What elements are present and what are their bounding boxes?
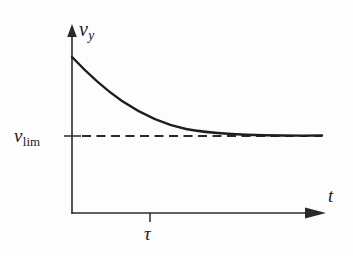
x-tick-label-tau: τ xyxy=(144,224,151,243)
plot-canvas xyxy=(0,0,353,256)
x-axis-arrowhead-icon xyxy=(305,207,326,218)
velocity-time-figure: vy vlim τ t xyxy=(0,0,353,256)
asymptote-label-subscript: lim xyxy=(23,136,40,149)
decay-curve xyxy=(72,57,322,136)
y-axis-label-base: v xyxy=(79,18,88,40)
asymptote-label: vlim xyxy=(14,126,40,149)
x-axis-label: t xyxy=(328,186,333,205)
y-axis-label: vy xyxy=(79,19,94,42)
y-axis-label-subscript: y xyxy=(88,29,94,43)
asymptote-label-base: v xyxy=(14,125,22,146)
y-axis-arrowhead-icon xyxy=(67,24,77,37)
